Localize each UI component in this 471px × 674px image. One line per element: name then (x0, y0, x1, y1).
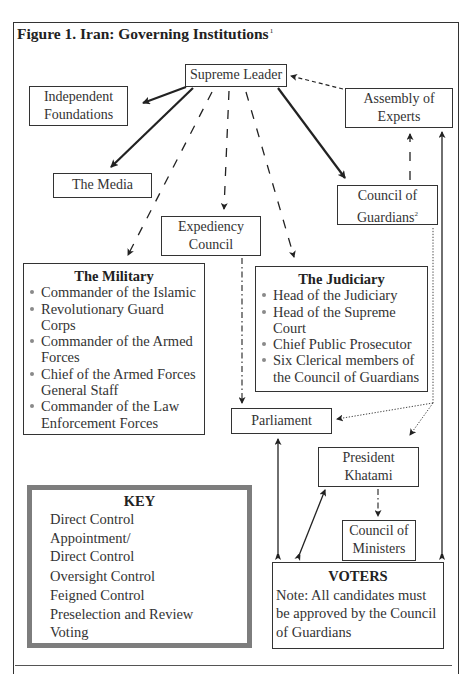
legend-preselection: Preselection and Review (50, 605, 193, 623)
feigned-control-edge (291, 76, 343, 89)
legend-appointment: Appointment/ Direct Control (50, 529, 134, 565)
legend-key: KEY Direct Control Appointment/ Direct C… (27, 485, 252, 648)
judiciary-item: Six Clerical members of the Council of G… (260, 352, 423, 385)
military-item: Commander of the Law Enforcement Forces (28, 398, 200, 431)
bottom-rule (15, 665, 452, 666)
legend-header: KEY (32, 493, 247, 510)
president-node: President Khatami (318, 447, 419, 487)
independent-foundations-node: Independent Foundations (29, 86, 128, 126)
military-list: Commander of the Islamic Revolutionary G… (28, 284, 200, 431)
military-node: The Military Commander of the Islamic Re… (23, 263, 205, 435)
judiciary-list: Head of the Judiciary Head of the Suprem… (260, 287, 423, 385)
judiciary-header: The Judiciary (260, 271, 423, 287)
legend-feigned-control: Feigned Control (50, 586, 145, 604)
the-media-node: The Media (53, 173, 152, 198)
supreme-leader-node: Supreme Leader (185, 64, 287, 87)
legend-direct-control: Direct Control (50, 510, 134, 528)
guardians-footnote: 2 (415, 210, 419, 218)
voters-header: VOTERS (276, 567, 440, 586)
legend-voting: Voting (50, 623, 88, 641)
military-item: Commander of the Islamic (28, 284, 200, 300)
voters-note: Note: All candidates must be approved by… (276, 586, 440, 642)
military-item: Chief of the Armed Forces General Staff (28, 366, 200, 399)
council-of-guardians-node: Council of Guardians2 (337, 185, 438, 225)
military-header: The Military (28, 268, 200, 284)
legend-oversight-control: Oversight Control (50, 567, 155, 585)
assembly-of-experts-node: Assembly of Experts (345, 88, 453, 128)
voters-node: VOTERS Note: All candidates must be appr… (272, 562, 444, 649)
judiciary-item: Chief Public Prosecutor (260, 336, 423, 352)
military-item: Commander of the Armed Forces (28, 333, 200, 366)
parliament-node: Parliament (231, 408, 332, 434)
military-item: Revolutionary Guard Corps (28, 301, 200, 334)
judiciary-node: The Judiciary Head of the Judiciary Head… (255, 266, 428, 392)
expediency-council-node: Expediency Council (161, 216, 261, 256)
council-of-ministers-node: Council of Ministers (342, 520, 416, 561)
direct-control-edges (111, 87, 345, 178)
judiciary-item: Head of the Judiciary (260, 287, 423, 303)
judiciary-item: Head of the Supreme Court (260, 304, 423, 337)
